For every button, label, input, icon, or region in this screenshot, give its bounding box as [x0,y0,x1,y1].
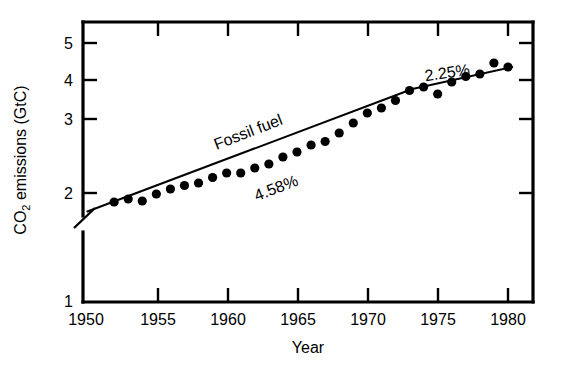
y-tick-label-5: 5 [64,35,73,52]
y-tick-label-2: 2 [64,185,73,202]
data-point [250,163,259,172]
data-point [138,196,147,205]
y-axis-title-post: emissions (GtC) [12,85,29,204]
data-point [124,194,133,203]
x-tick-label-1965: 1965 [280,311,316,328]
y-tick-label-3: 3 [64,111,73,128]
y-axis-title: CO2 emissions (GtC) [12,85,32,234]
y-axis-ticks [83,43,97,193]
y-axis-ticks-right [519,43,533,193]
chart-figure: 5 4 3 2 1 1950 1955 1960 1965 1970 1975 … [0,0,561,366]
svg-text:4.58%: 4.58% [252,172,300,204]
rate-label-2-25: 2.25% [424,61,471,84]
x-axis-ticks-top [158,22,508,36]
data-points-group [110,58,513,206]
data-point [475,69,484,78]
data-point [321,137,330,146]
data-point [405,86,414,95]
data-point [110,197,119,206]
x-tick-label-1955: 1955 [140,311,176,328]
data-point [236,168,245,177]
data-point [433,89,442,98]
x-tick-label-1950: 1950 [68,311,104,328]
svg-text:Fossil fuel: Fossil fuel [211,111,284,153]
data-point [391,96,400,105]
data-point [278,152,287,161]
data-point [377,103,386,112]
co2-emissions-chart: 5 4 3 2 1 1950 1955 1960 1965 1970 1975 … [0,0,561,366]
svg-text:2.25%: 2.25% [424,61,471,84]
x-tick-label-1975: 1975 [420,311,456,328]
data-point [152,189,161,198]
trend-lines [87,67,512,212]
y-axis-title-pre: CO [12,211,29,235]
data-point [180,181,189,190]
y-tick-label-1: 1 [64,293,73,310]
x-axis-ticks [158,288,508,302]
data-point [166,184,175,193]
data-point [222,168,231,177]
x-tick-label-1980: 1980 [490,311,526,328]
svg-text:CO2 emissions (GtC): CO2 emissions (GtC) [12,85,32,234]
y-tick-label-4: 4 [64,72,73,89]
y-tick-labels: 5 4 3 2 1 [64,35,73,310]
data-point [335,128,344,137]
x-tick-label-1970: 1970 [350,311,386,328]
data-point [208,173,217,182]
data-point [292,147,301,156]
data-point [306,140,315,149]
trend-line-4-58 [87,89,412,212]
data-point [264,159,273,168]
data-point [503,62,512,71]
data-point [363,108,372,117]
data-point [489,58,498,67]
data-point [349,118,358,127]
x-axis-title: Year [292,339,325,356]
x-tick-labels: 1950 1955 1960 1965 1970 1975 1980 [68,311,526,328]
series-label-fossil-fuel: Fossil fuel [211,111,284,153]
rate-label-4-58: 4.58% [252,172,300,204]
x-tick-label-1960: 1960 [210,311,246,328]
data-point [194,178,203,187]
